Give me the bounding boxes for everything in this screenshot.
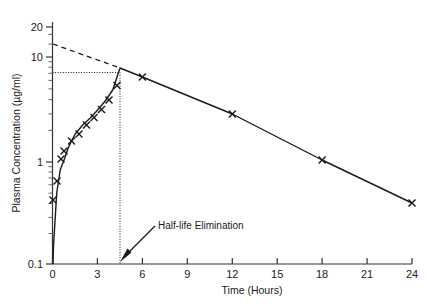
x-tick-label-12: 12 — [226, 268, 238, 280]
data-point — [83, 122, 90, 129]
data-point — [319, 157, 326, 164]
half-life-annotation-arrow — [120, 226, 155, 262]
data-point — [229, 111, 236, 118]
y-tick-label-0.1: 0.1 — [28, 258, 43, 270]
x-tick-label-18: 18 — [316, 268, 328, 280]
y-tick-label-1: 1 — [37, 156, 43, 168]
x-tick-label-24: 24 — [406, 268, 418, 280]
data-point-markers — [50, 74, 416, 207]
data-point — [139, 74, 146, 81]
x-axis-ticks — [53, 258, 413, 264]
data-point — [76, 131, 83, 138]
y-axis-major-ticks — [46, 27, 53, 264]
x-tick-label-9: 9 — [184, 268, 190, 280]
data-point — [54, 178, 61, 185]
x-tick-label-21: 21 — [361, 268, 373, 280]
extrapolation-dashed-line — [53, 44, 120, 68]
plasma-concentration-chart: 20 10 1 0.1 0 3 6 9 12 15 18 21 24 Plasm… — [0, 0, 428, 307]
data-point — [58, 156, 65, 163]
y-axis-title: Plasma Concentration (µg/ml) — [10, 73, 22, 212]
x-tick-label-15: 15 — [271, 268, 283, 280]
y-tick-label-20: 20 — [31, 21, 43, 33]
x-tick-label-0: 0 — [49, 268, 55, 280]
x-tick-label-6: 6 — [139, 268, 145, 280]
x-tick-label-3: 3 — [94, 268, 100, 280]
x-axis-title: Time (Hours) — [222, 284, 283, 296]
y-tick-label-10: 10 — [31, 51, 43, 63]
chart-canvas: 20 10 1 0.1 0 3 6 9 12 15 18 21 24 Plasm… — [0, 0, 428, 307]
data-point — [68, 138, 75, 145]
data-point — [409, 200, 416, 207]
half-life-elimination-label: Half-life Elimination — [158, 220, 244, 231]
data-point — [98, 106, 105, 113]
